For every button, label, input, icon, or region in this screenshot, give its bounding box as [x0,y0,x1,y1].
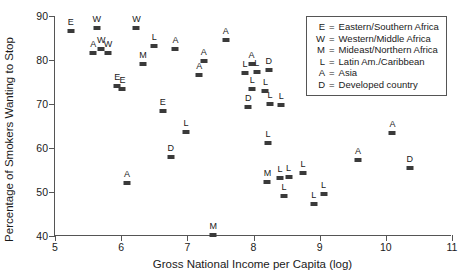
legend-key: M [312,44,325,56]
x-axis-tick-label: 5 [52,242,58,252]
x-axis-tick-label: 11 [447,242,458,252]
data-point-marker [264,180,271,184]
data-point-marker [265,141,272,145]
data-point-label: L [279,92,284,101]
data-point-label: M [139,51,147,60]
data-point-marker [151,44,158,48]
legend-equals-sign: = [325,44,339,56]
legend-key: E [312,21,325,33]
data-point-label: L [301,160,306,169]
legend-label: Eastern/Southern Africa [339,21,439,33]
data-point-label: D [168,144,175,153]
legend-label: Mideast/Northern Africa [339,44,438,56]
legend-item: L=Latin Am./Caribbean [312,56,439,68]
x-axis-title: Gross National Income per Capita (log) [54,258,451,270]
x-axis-tick-label: 9 [317,242,323,252]
data-point-marker [196,73,203,77]
data-point-label: L [286,164,291,173]
data-point-marker [267,102,274,106]
y-axis-tick-label: 50 [36,187,48,197]
data-point-label: W [104,40,113,49]
legend-item: D=Developed country [312,79,439,91]
x-axis-tick-label: 7 [184,242,190,252]
data-point-marker [183,130,190,134]
data-point-marker [172,47,179,51]
data-point-label: L [183,119,188,128]
data-point-marker [159,109,166,113]
y-axis-tick [49,16,55,17]
data-point-marker [245,105,252,109]
data-point-marker [67,29,74,33]
data-point-label: L [268,91,273,100]
legend-label: Asia [339,67,357,79]
data-point-marker [300,171,307,175]
data-point-label: E [119,76,125,85]
y-axis-tick-label: 60 [36,143,48,153]
data-point-marker [241,71,248,75]
legend-item: W=Western/Middle Africa [312,33,439,45]
data-point-marker [210,233,217,237]
x-axis-tick-label: 6 [118,242,124,252]
data-point-marker [285,175,292,179]
data-point-label: L [266,130,271,139]
legend-label: Latin Am./Caribbean [339,56,425,68]
legend-label: Western/Middle Africa [339,33,431,45]
data-point-label: L [250,76,255,85]
data-point-label: A [90,40,96,49]
data-point-label: L [311,191,316,200]
legend-key: L [312,56,325,68]
x-axis-tick-label: 8 [251,242,257,252]
data-point-label: M [264,169,272,178]
data-point-marker [320,192,327,196]
data-point-label: W [132,15,141,24]
data-point-marker [140,62,147,66]
legend-item: A=Asia [312,67,439,79]
y-axis-tick [49,60,55,61]
data-point-label: A [389,120,395,129]
y-axis-tick-label: 70 [36,99,48,109]
legend-equals-sign: = [325,79,339,91]
legend-equals-sign: = [325,21,339,33]
y-axis-tick-label: 80 [36,55,48,65]
data-point-marker [104,51,111,55]
data-point-marker [278,103,285,107]
legend-equals-sign: = [325,56,339,68]
legend-box: E=Eastern/Southern AfricaW=Western/Middl… [306,16,447,96]
data-point-marker [133,26,140,30]
data-point-label: L [242,60,247,69]
data-point-marker [93,26,100,30]
y-axis-tick [49,192,55,193]
legend-key: D [312,79,325,91]
data-point-marker [90,51,97,55]
data-point-label: A [355,147,361,156]
data-point-marker [406,166,413,170]
data-point-label: D [265,57,272,66]
data-point-marker [276,176,283,180]
data-point-marker [119,87,126,91]
data-point-label: L [321,181,326,190]
scatter-chart-figure: Percentage of Smokers Wanting to Stop Gr… [0,0,469,279]
legend-label: Developed country [339,79,418,91]
data-point-marker [200,59,207,63]
data-point-label: E [160,98,166,107]
x-axis-tick-label: 10 [380,242,392,252]
data-point-marker [167,155,174,159]
data-point-label: L [277,165,282,174]
data-point-label: A [201,48,207,57]
y-axis-tick-label: 40 [36,231,48,241]
legend-item: M=Mideast/Northern Africa [312,44,439,56]
data-point-label: D [245,94,252,103]
data-point-label: L [152,33,157,42]
data-point-label: L [263,78,268,87]
data-point-label: L [281,183,286,192]
y-axis-tick [49,104,55,105]
data-point-marker [389,131,396,135]
legend-equals-sign: = [325,67,339,79]
legend-key: W [312,33,325,45]
y-axis-title: Percentage of Smokers Wanting to Stop [2,0,16,279]
data-point-label: M [209,222,217,231]
data-point-marker [265,68,272,72]
legend-key: A [312,67,325,79]
data-point-label: W [92,15,101,24]
legend-equals-sign: = [325,33,339,45]
